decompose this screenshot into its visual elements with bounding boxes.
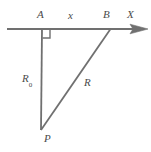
label-segment-r0: R0 (22, 73, 32, 87)
segment-r0-line (41, 29, 42, 130)
label-vertex-a: A (37, 9, 44, 20)
label-vertex-p: P (44, 133, 51, 144)
label-segment-r: R (84, 77, 91, 88)
label-segment-r0-base: R (22, 72, 29, 84)
label-vertex-b: B (103, 9, 110, 20)
x-axis-arrowhead (130, 24, 148, 34)
geometry-figure: A x B X R0 R P (0, 0, 151, 152)
segment-r-line (41, 29, 111, 130)
right-angle-marker (43, 30, 51, 38)
label-segment-r0-subscript: 0 (29, 81, 33, 89)
label-axis-x: X (127, 9, 134, 20)
label-segment-x: x (68, 10, 73, 21)
